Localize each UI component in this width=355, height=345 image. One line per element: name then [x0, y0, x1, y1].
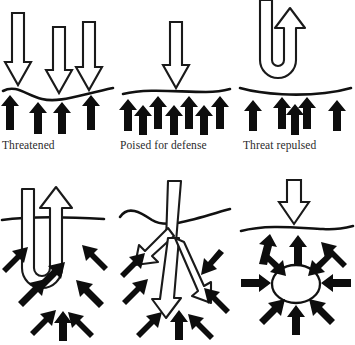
defense-arrow-icon [201, 249, 224, 275]
boundary-line [123, 89, 230, 94]
panel-threat-repulsed: Threat repulsed [237, 0, 355, 138]
panel-label-poised-for-defense: Poised for defense [120, 139, 207, 151]
defense-arrow-icon [321, 274, 351, 292]
defense-arrow-icon [204, 288, 230, 314]
threat-arrow-uturn-icon [260, 0, 305, 78]
panel-threat-disseminates [118, 172, 236, 345]
defense-arrow-up-icon [53, 102, 71, 134]
threat-arrow-down-icon [76, 22, 102, 90]
boundary-line [240, 88, 351, 95]
panel-label-threatened: Threatened [2, 139, 55, 151]
panel-disseminates-graphic [118, 172, 236, 345]
defense-arrow-up-icon [286, 104, 304, 135]
panel-threat-penetrates [0, 172, 118, 345]
defense-arrow-up-icon [82, 95, 100, 130]
panel-threatened: Threatened [0, 0, 118, 138]
defense-arrow-up-icon [165, 105, 183, 135]
panel-penetrates-graphic [0, 172, 118, 345]
defense-arrow-icon [82, 245, 108, 271]
panel-encapsulated-graphic [237, 172, 355, 345]
defense-arrow-up-icon [119, 99, 137, 131]
defense-arrow-icon [309, 299, 335, 325]
defense-arrow-up-icon [1, 95, 19, 130]
defense-arrow-icon [188, 314, 214, 340]
defense-arrow-icon [241, 274, 271, 292]
defense-arrow-up-icon [244, 100, 262, 131]
panel-repulsed-graphic [237, 0, 355, 138]
defense-arrow-icon [76, 280, 104, 308]
threat-arrow-down-icon [46, 27, 72, 93]
defense-arrow-up-icon [328, 100, 346, 131]
panel-poised-graphic [118, 0, 236, 138]
defense-arrow-up-icon [180, 96, 198, 129]
defense-arrow-up-icon [195, 105, 213, 135]
defense-arrow-up-icon [29, 102, 47, 134]
defense-arrow-up-icon [149, 96, 167, 129]
defense-arrow-up-icon [134, 105, 152, 135]
defense-arrow-icon [122, 279, 148, 305]
boundary-line [241, 226, 353, 231]
defense-arrow-icon [30, 310, 56, 336]
threat-arrow-uturn-icon [22, 187, 72, 288]
defense-arrow-group [244, 97, 346, 135]
defense-arrow-icon [259, 299, 285, 325]
threat-arrow-branching-icon [135, 181, 211, 318]
defense-arrow-up-icon [211, 96, 229, 129]
panel-threatened-graphic [0, 0, 118, 138]
defense-arrow-group [119, 96, 229, 135]
threat-arrow-down-icon [5, 13, 31, 85]
panel-poised-for-defense: Poised for defense [118, 0, 236, 138]
defense-arrow-icon [120, 253, 145, 278]
panel-threat-encapsulated [237, 172, 355, 345]
defense-arrow-icon [68, 312, 94, 338]
panel-label-threat-repulsed: Threat repulsed [243, 139, 316, 151]
immune-response-diagram: Threatened Poised for defense [0, 0, 355, 345]
defense-arrow-icon [289, 235, 307, 266]
threat-arrow-down-icon [279, 180, 309, 224]
defense-arrow-icon [170, 310, 188, 340]
defense-arrow-icon [308, 252, 333, 276]
defense-arrow-icon [136, 312, 162, 338]
defense-arrow-icon [287, 305, 305, 335]
threat-arrow-down-icon [163, 22, 189, 88]
